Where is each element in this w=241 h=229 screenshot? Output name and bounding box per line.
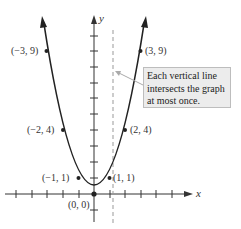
- curve-arrow-left-icon: [40, 16, 47, 28]
- callout-pointer: [117, 72, 143, 85]
- curve-arrow-right-icon: [141, 16, 148, 28]
- callout-box: Each vertical line intersects the graph …: [143, 67, 231, 108]
- callout-text: Each vertical line intersects the graph …: [147, 70, 225, 106]
- point-label-0-0: (0, 0): [68, 200, 90, 210]
- x-axis-arrow-icon: [184, 191, 193, 197]
- parabola-graph: [0, 0, 241, 229]
- point-label-1-1: (1, 1): [113, 173, 135, 183]
- point-label-neg1-1: (−1, 1): [42, 173, 69, 183]
- point-label-neg3-9: (−3, 9): [11, 46, 38, 56]
- x-axis-label: x: [196, 188, 201, 199]
- point-label-2-4: (2, 4): [130, 125, 152, 135]
- y-axis-label: y: [99, 13, 104, 24]
- point-label-neg2-4: (−2, 4): [27, 125, 54, 135]
- y-axis-arrow-icon: [91, 15, 97, 24]
- point-label-3-9: (3, 9): [145, 46, 167, 56]
